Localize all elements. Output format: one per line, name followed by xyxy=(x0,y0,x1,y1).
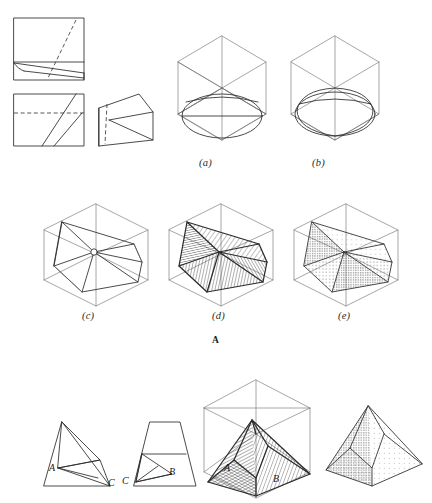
label-trapezoid-b: B xyxy=(169,466,175,477)
label-trapezoid-c: C xyxy=(122,475,129,486)
ortho-front-view xyxy=(12,92,88,150)
section-label-a: A xyxy=(212,335,219,345)
caption-b: (b) xyxy=(312,157,325,168)
caption-c: (c) xyxy=(82,310,94,321)
ortho-side-view xyxy=(95,92,157,150)
figure-pyramid-line-shaded xyxy=(198,378,326,503)
ortho-top-view xyxy=(12,16,88,84)
ortho-triangle-view xyxy=(38,418,114,503)
label-triangle-c: C xyxy=(108,477,115,488)
figure-b-isometric-blocked xyxy=(285,30,385,152)
figure-pyramid-stippled xyxy=(318,392,432,503)
figure-c-faceted-outline xyxy=(38,200,154,312)
label-triangle-a: A xyxy=(49,462,55,473)
caption-a: (a) xyxy=(199,157,212,168)
caption-e: (e) xyxy=(338,310,350,321)
label-pyramid-a: A xyxy=(224,462,230,473)
figure-e-stippled xyxy=(288,200,404,312)
ortho-trapezoid-view xyxy=(128,418,202,503)
drawing-plate: (a) (b) xyxy=(0,0,432,503)
caption-d: (d) xyxy=(212,310,225,321)
figure-a-isometric-ellipse xyxy=(172,30,272,152)
figure-d-line-shaded xyxy=(163,200,279,312)
label-pyramid-b: B xyxy=(273,473,279,484)
